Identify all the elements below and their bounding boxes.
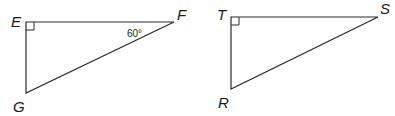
triangle-efg: E F G 60° — [11, 6, 187, 115]
triangle-efg-edges — [26, 22, 174, 93]
vertex-label-f: F — [177, 6, 187, 23]
angle-label-f: 60° — [127, 28, 142, 39]
vertex-label-e: E — [11, 13, 22, 30]
triangles-diagram: E F G 60° T S R — [0, 0, 395, 116]
vertex-label-s: S — [380, 0, 390, 17]
triangle-tsr: T S R — [217, 0, 390, 111]
right-angle-mark-e — [26, 22, 34, 30]
vertex-label-t: T — [217, 6, 228, 23]
right-angle-mark-t — [231, 17, 239, 25]
vertex-label-g: G — [13, 98, 25, 115]
triangle-tsr-edges — [231, 17, 378, 89]
vertex-label-r: R — [218, 94, 229, 111]
